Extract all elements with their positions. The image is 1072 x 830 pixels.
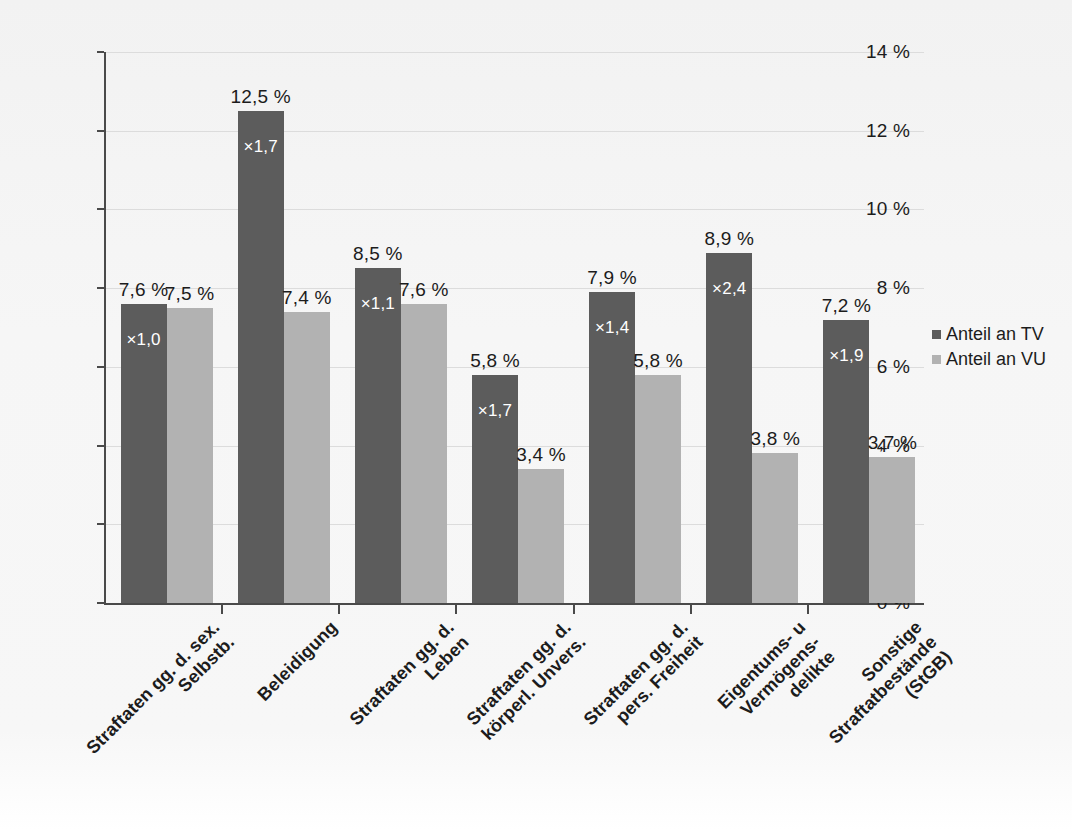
- x-axis-line: [104, 603, 924, 605]
- bar-vu[interactable]: 7,5 %: [167, 308, 213, 603]
- bar-value-label: 7,2 %: [822, 295, 872, 317]
- x-axis-tick: [573, 605, 575, 614]
- legend-label-tv: Anteil an TV: [946, 324, 1044, 345]
- x-axis-tick: [690, 605, 692, 614]
- y-axis-tick: [97, 602, 104, 604]
- y-axis-tick: [97, 208, 104, 210]
- bar-tv[interactable]: 12,5 %×1,7: [238, 111, 284, 603]
- x-axis-tick: [338, 605, 340, 614]
- bar-vu[interactable]: 3,8 %: [752, 453, 798, 603]
- bar-tv[interactable]: 7,9 %×1,4: [589, 292, 635, 603]
- bar-value-label: 5,8 %: [633, 350, 683, 372]
- bar-value-label: 3,4 %: [516, 444, 566, 466]
- bar-vu[interactable]: 5,8 %: [635, 375, 681, 603]
- y-axis-tick: [97, 366, 104, 368]
- y-axis-tick: [97, 287, 104, 289]
- bar-value-label: 3,7 %: [868, 432, 918, 454]
- bar-tv[interactable]: 7,2 %×1,9: [823, 320, 869, 603]
- bar-factor-label: ×1,1: [361, 294, 395, 314]
- legend-label-vu: Anteil an VU: [946, 349, 1046, 370]
- y-axis-tick-label: 10 %: [818, 198, 910, 220]
- bar-value-label: 8,9 %: [704, 228, 754, 250]
- y-axis-tick-label: 12 %: [818, 120, 910, 142]
- bar-vu[interactable]: 7,4 %: [284, 312, 330, 603]
- bar-tv[interactable]: 5,8 %×1,7: [472, 375, 518, 603]
- chart-legend: Anteil an TV Anteil an VU: [932, 322, 1046, 372]
- bar-factor-label: ×2,4: [712, 279, 746, 299]
- gridline: [106, 209, 924, 210]
- y-axis-tick: [97, 523, 104, 525]
- x-axis-tick: [455, 605, 457, 614]
- bar-vu[interactable]: 7,6 %: [401, 304, 447, 603]
- legend-swatch-icon-vu: [932, 355, 941, 364]
- y-axis-tick-label: 14 %: [818, 41, 910, 63]
- bar-vu[interactable]: 3,7 %: [869, 457, 915, 603]
- bar-value-label: 8,5 %: [353, 243, 403, 265]
- gridline: [106, 131, 924, 132]
- bar-factor-label: ×1,7: [244, 137, 278, 157]
- bar-value-label: 7,5 %: [165, 283, 215, 305]
- y-axis-tick: [97, 130, 104, 132]
- bar-factor-label: ×1,9: [829, 346, 863, 366]
- legend-swatch-icon-tv: [932, 330, 941, 339]
- legend-item-tv[interactable]: Anteil an TV: [932, 322, 1046, 347]
- y-axis-tick: [97, 51, 104, 53]
- bar-value-label: 7,6 %: [399, 279, 449, 301]
- bar-value-label: 12,5 %: [231, 86, 291, 108]
- bar-value-label: 5,8 %: [470, 350, 520, 372]
- bar-value-label: 7,4 %: [282, 287, 332, 309]
- bar-tv[interactable]: 8,5 %×1,1: [355, 268, 401, 603]
- bar-value-label: 7,6 %: [119, 279, 169, 301]
- bar-factor-label: ×1,0: [126, 330, 160, 350]
- gridline: [106, 52, 924, 53]
- legend-item-vu[interactable]: Anteil an VU: [932, 347, 1046, 372]
- bar-value-label: 7,9 %: [587, 267, 637, 289]
- bar-vu[interactable]: 3,4 %: [518, 469, 564, 603]
- bar-tv[interactable]: 7,6 %×1,0: [121, 304, 167, 603]
- chart-figure: 0 %2 %4 %6 %8 %10 %12 %14 % 7,6 %×1,07,5…: [0, 0, 1072, 830]
- bar-value-label: 3,8 %: [750, 428, 800, 450]
- y-axis-tick: [97, 445, 104, 447]
- bar-factor-label: ×1,4: [595, 318, 629, 338]
- plot-area: 0 %2 %4 %6 %8 %10 %12 %14 % 7,6 %×1,07,5…: [104, 52, 924, 605]
- gridline: [106, 288, 924, 289]
- bar-factor-label: ×1,7: [478, 401, 512, 421]
- x-axis-tick: [807, 605, 809, 614]
- bar-tv[interactable]: 8,9 %×2,4: [706, 253, 752, 603]
- x-axis-tick: [221, 605, 223, 614]
- y-axis-line: [104, 52, 106, 605]
